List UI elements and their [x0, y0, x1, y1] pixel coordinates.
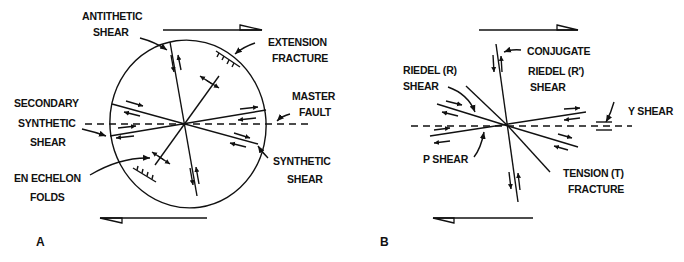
label-master-fault: MASTER FAULT — [292, 90, 338, 118]
label-secondary-synthetic-shear: SECONDARY SYNTHETIC SHEAR — [14, 97, 81, 148]
bottom-shear-arrow-left — [100, 218, 207, 223]
strike-slip-fault-diagram: ANTITHETIC SHEAR EXTENSION FRACTURE MAST… — [0, 0, 684, 262]
label-extension-fracture: EXTENSION FRACTURE — [268, 36, 330, 64]
label-antithetic-shear: ANTITHETIC SHEAR — [82, 10, 145, 38]
panel-a: ANTITHETIC SHEAR EXTENSION FRACTURE MAST… — [14, 10, 338, 249]
extension-axis-line — [155, 76, 219, 165]
label-y-shear: Y SHEAR — [628, 105, 674, 117]
label-en-echelon-folds: EN ECHELON FOLDS — [14, 172, 84, 203]
top-shear-arrow-right — [163, 25, 262, 30]
label-conjugate-riedel-shear: CONJUGATE RIEDEL (R′) SHEAR — [527, 45, 593, 93]
panel-label-b: B — [380, 235, 389, 249]
label-synthetic-shear: SYNTHETIC SHEAR — [273, 155, 333, 185]
label-tension-fracture: TENSION (T) FRACTURE — [563, 167, 627, 195]
antithetic-shear-line — [170, 42, 197, 196]
top-shear-arrow-right-b — [479, 25, 578, 30]
bottom-shear-arrow-left-b — [433, 218, 533, 223]
panel-b: RIEDEL (R) SHEAR CONJUGATE RIEDEL (R′) S… — [380, 25, 674, 249]
label-p-shear: P SHEAR — [423, 153, 469, 165]
en-echelon-folds-symbol — [133, 166, 156, 182]
panel-label-a: A — [36, 235, 45, 249]
